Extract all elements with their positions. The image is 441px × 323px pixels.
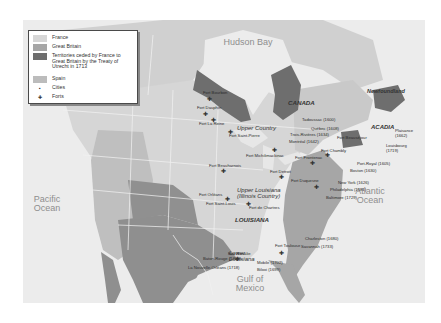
fort-duquesne: Fort Duquesne [291,178,319,183]
legend-label: Forts [52,94,64,100]
city-trois-rivieres: Trois-Rivières (1634) [290,132,329,137]
city-louisbourg: Louisbourg (1719) [386,144,410,153]
legend-item-spain: Spain [33,76,65,83]
legend-label: Great Britain [52,44,81,50]
fort-cross-icon: ✚ [33,94,47,100]
gulf-of-mexico-label: Gulf of Mexico [231,275,269,293]
fort-beausejour: Fort Beauséjour [337,135,367,140]
city-baltimore: Baltimore (1729) [326,195,357,200]
fort-cross-icon: ✚ [279,174,284,180]
fort-cross-icon: ✚ [211,117,216,123]
legend-item-great-britain: Great Britain [33,44,81,51]
city-boston: Boston (1630) [350,168,376,173]
fort-cross-icon: ✚ [228,129,233,135]
fort-cross-icon: ✚ [221,168,226,174]
legend-item-cities: ▪ Cities [33,85,65,91]
city-plaisance: Plaisance (1662) [395,129,417,138]
fort-bourbon: Fort Bourbon [203,90,227,95]
legend-item-utrecht: Territories ceded by France to Great Bri… [33,53,133,70]
fort-orleans: Fort Orléans [199,192,222,197]
city-biloxi: Biloxi (1699) [257,267,280,272]
region-acadia: ACADIA [371,124,394,130]
legend-label: Cities [52,85,65,91]
fort-de-chartres: Fort de Chartres [249,205,280,210]
legend-item-france: France [33,35,68,42]
city-la-nouvelle-orleans: La Nouvelle-Orléans (1718) [188,265,239,270]
region-upper-country: Upper Country [237,125,276,131]
fort-saint-louis: Fort Saint-Louis [206,201,236,206]
spain-swatch-icon [33,76,47,83]
fort-michilimackinac: Fort Michilimackinac [246,153,284,158]
fort-cross-icon: ✚ [310,160,315,166]
fort-frontenac: Fort Frontenac [295,155,322,160]
region-upper-louisiana: Upper Louisiana (Illinois Country) [237,187,295,199]
legend-item-forts: ✚ Forts [33,94,64,100]
map-legend: France Great Britain Territories ceded b… [28,30,138,104]
france-swatch-icon [33,35,47,42]
fort-cross-icon: ✚ [225,196,230,202]
city-dot-icon: ▪ [33,85,47,91]
fort-cross-icon: ✚ [314,184,319,190]
great-britain-swatch-icon [33,44,47,51]
fort-cross-icon: ✚ [207,96,212,102]
fort-cross-icon: ✚ [203,111,208,117]
hudson-bay-label: Hudson Bay [223,38,273,47]
region-louisiana: LOUISIANA [235,216,269,223]
fort-dauphin: Fort Dauphin [197,105,221,110]
fort-toulouse: Fort Toulouse [275,243,300,248]
fort-saint-pierre: Fort Saint-Pierre [229,133,260,138]
pacific-ocean-label: Pacific Ocean [27,195,67,213]
city-philadelphia: Philadelphia (1681) [330,187,366,192]
legend-label: Territories ceded by France to Great Bri… [52,53,128,70]
city-new-york: New York (1626) [338,180,369,185]
utrecht-swatch-icon [33,53,47,60]
region-newfoundland: Newfoundland [367,88,405,94]
city-tadoussac: Tadoussac (1600) [302,117,335,122]
legend-label: France [52,35,68,41]
city-charleston: Charleston (1680) [305,236,339,241]
legend-label: Spain [52,76,65,82]
fort-cross-icon: ✚ [279,250,284,256]
city-mobile: Mobile (1702) [257,260,283,265]
fort-cross-icon: ✚ [325,152,330,158]
city-montreal: Montréal (1642) [289,139,319,144]
city-port-royal: Port-Royal (1605) [357,161,390,166]
city-savannah: Savannah (1733) [301,244,333,249]
region-canada: CANADA [288,99,315,106]
fort-cross-icon: ✚ [272,147,277,153]
fort-cross-icon: ✚ [246,201,251,207]
fort-cross-icon: ✚ [235,256,240,262]
city-quebec: Québec (1608) [311,126,339,131]
